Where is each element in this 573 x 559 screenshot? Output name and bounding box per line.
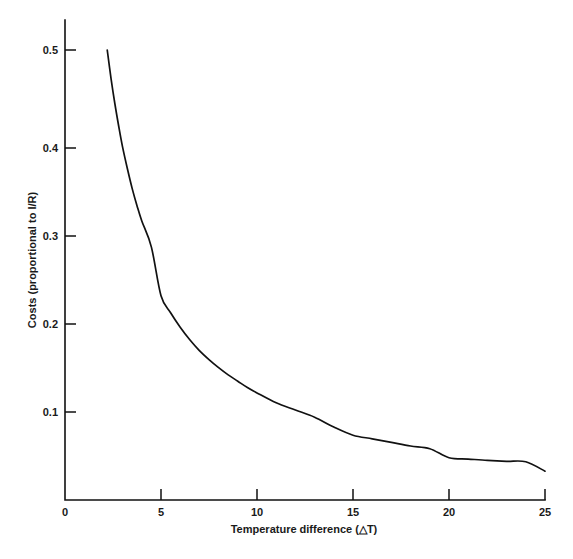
chart-figure: 0.5 0.4 0.3 0.2 0.1 0 5 10 15 20 25 Temp… [0,0,573,559]
x-tick-labels: 0 5 10 15 20 25 [62,506,551,518]
x-tick-label: 20 [443,506,455,518]
cost-curve [107,50,545,471]
y-tick-label: 0.1 [43,406,58,418]
y-axis-title: Costs (proportional to I/R) [26,192,38,329]
x-tick-label: 15 [347,506,359,518]
y-tick-labels: 0.5 0.4 0.3 0.2 0.1 [43,44,59,418]
y-tick-label: 0.2 [43,318,58,330]
x-tick-marks [161,489,545,500]
x-tick-label: 25 [539,506,551,518]
x-axis-title: Temperature difference (△T) [231,523,378,535]
y-tick-label: 0.4 [43,142,59,154]
chart-axes [65,20,545,500]
x-tick-label: 10 [251,506,263,518]
line-chart: 0.5 0.4 0.3 0.2 0.1 0 5 10 15 20 25 Temp… [0,0,573,559]
x-tick-label: 5 [158,506,164,518]
x-tick-label: 0 [62,506,68,518]
y-tick-marks [65,50,76,412]
y-tick-label: 0.3 [43,230,58,242]
y-tick-label: 0.5 [43,44,58,56]
